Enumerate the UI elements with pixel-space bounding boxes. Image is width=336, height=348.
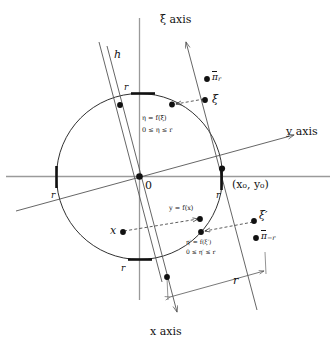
radius-label-bottom: r	[121, 263, 125, 273]
dashed-connector-lower	[205, 222, 253, 231]
diagram-vector-layer	[0, 0, 336, 348]
radius-label-right: r	[216, 190, 220, 200]
origin-label: 0	[145, 179, 152, 192]
annotation-eta-prime-equation: η′ = f(ξ′)	[186, 238, 211, 245]
strip-width-label: r	[233, 274, 238, 287]
point-xi	[202, 97, 208, 103]
origin-point	[136, 173, 143, 180]
dashed-connector-upper	[176, 99, 204, 104]
point-label-xi: ξ	[212, 93, 218, 106]
point-curve-mid	[197, 216, 203, 222]
rotated-x-axis	[107, 46, 177, 312]
point-x0y0	[219, 165, 225, 171]
point-circle-upper-right	[169, 102, 175, 108]
diagram-canvas: ξ axis y axis x axis h 0 πr ξ ξ′ π−r x (…	[0, 0, 336, 348]
point-circle-upper-left	[117, 102, 123, 108]
radius-label-top: r	[124, 82, 128, 92]
x-axis-label: x axis	[150, 325, 182, 338]
annotation-eta-range: 0 ≤ η ≤ r	[142, 126, 172, 134]
point-xi-prime	[251, 218, 257, 224]
annotation-y-equals-fx: y = f(x)	[169, 204, 193, 212]
dashed-connector-middle	[124, 219, 198, 231]
line-h-label: h	[114, 48, 121, 61]
point-label-xi-prime: ξ′	[259, 209, 268, 222]
xi-axis-label: ξ axis	[160, 13, 191, 26]
radius-label-left: r	[51, 190, 55, 200]
point-label-pi-minus-r: π−r	[261, 231, 275, 242]
y-axis-label: y axis	[286, 125, 318, 138]
annotation-eta-prime-range: 0 ≤ η′ ≤ r	[186, 248, 215, 255]
point-label-pi-r: πr	[212, 72, 221, 83]
point-x	[120, 229, 126, 235]
annotation-eta-equation: η = f(ξ)	[142, 114, 167, 122]
point-pi-r	[204, 76, 210, 82]
point-curve-lower	[198, 229, 204, 235]
coordinate-label-x0y0: (x₀, y₀)	[232, 178, 269, 191]
strip-width-measure	[167, 252, 266, 300]
point-pi-minus-r	[253, 235, 259, 241]
point-label-x: x	[110, 224, 116, 237]
line-h	[99, 42, 162, 282]
point-circle-lower	[164, 274, 170, 280]
